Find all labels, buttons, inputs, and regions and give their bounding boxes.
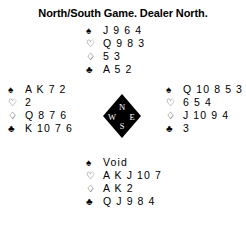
diamond-icon: ♢ (86, 182, 103, 195)
club-icon: ♣ (8, 122, 25, 135)
hand-west-spades: A K 7 2 (25, 83, 67, 96)
hand-north-diamonds: 5 3 (103, 50, 121, 63)
hand-south-hearts-row: ♡ A K J 10 7 (86, 169, 162, 182)
hand-east-clubs: 3 (183, 122, 190, 135)
compass-label-south: S (117, 122, 127, 131)
heart-icon: ♡ (86, 37, 103, 50)
hand-south-spades-row: ♠ Void (86, 156, 162, 169)
spade-icon: ♠ (8, 83, 25, 96)
hand-south-clubs-row: ♣ Q J 9 8 4 (86, 195, 162, 208)
hand-north-clubs: A 5 2 (103, 63, 132, 76)
hand-south-diamonds-row: ♢ A K 2 (86, 182, 162, 195)
club-icon: ♣ (166, 122, 183, 135)
hand-north-spades-row: ♠ J 9 6 4 (86, 24, 145, 37)
diamond-icon: ♢ (166, 109, 183, 122)
compass-rose: N W E S (103, 94, 141, 138)
compass-label-north: N (117, 103, 127, 112)
hand-south-hearts: A K J 10 7 (103, 169, 162, 182)
compass-label-west: W (107, 113, 117, 122)
hand-north-hearts-row: ♡ Q 9 8 3 (86, 37, 145, 50)
hand-north-diamonds-row: ♢ 5 3 (86, 50, 145, 63)
hand-south-spades: Void (103, 156, 128, 169)
hand-west-diamonds-row: ♢ Q 8 7 6 (8, 109, 73, 122)
hand-west-spades-row: ♠ A K 7 2 (8, 83, 73, 96)
hand-west-hearts: 2 (25, 96, 32, 109)
hand-east-spades-row: ♠ Q 10 8 5 3 (166, 83, 243, 96)
club-icon: ♣ (86, 63, 103, 76)
bridge-deal-diagram: North/South Game. Dealer North. ♠ J 9 6 … (0, 0, 246, 230)
heart-icon: ♡ (86, 169, 103, 182)
hand-north-spades: J 9 6 4 (103, 24, 142, 37)
spade-icon: ♠ (86, 156, 103, 169)
diamond-icon: ♢ (8, 109, 25, 122)
heart-icon: ♡ (8, 96, 25, 109)
hand-south: ♠ Void ♡ A K J 10 7 ♢ A K 2 ♣ Q J 9 8 4 (86, 156, 162, 208)
hand-north-hearts: Q 9 8 3 (103, 37, 145, 50)
diamond-icon: ♢ (86, 50, 103, 63)
hand-west-hearts-row: ♡ 2 (8, 96, 73, 109)
spade-icon: ♠ (166, 83, 183, 96)
hand-east-hearts-row: ♡ 6 5 4 (166, 96, 243, 109)
hand-east: ♠ Q 10 8 5 3 ♡ 6 5 4 ♢ J 10 9 4 ♣ 3 (166, 83, 243, 135)
hand-west: ♠ A K 7 2 ♡ 2 ♢ Q 8 7 6 ♣ K 10 7 6 (8, 83, 73, 135)
spade-icon: ♠ (86, 24, 103, 37)
hand-east-diamonds-row: ♢ J 10 9 4 (166, 109, 243, 122)
hand-west-clubs-row: ♣ K 10 7 6 (8, 122, 73, 135)
hand-west-clubs: K 10 7 6 (25, 122, 73, 135)
club-icon: ♣ (86, 195, 103, 208)
hand-east-hearts: 6 5 4 (183, 96, 212, 109)
hand-east-clubs-row: ♣ 3 (166, 122, 243, 135)
page-title: North/South Game. Dealer North. (0, 7, 246, 20)
heart-icon: ♡ (166, 96, 183, 109)
hand-north-clubs-row: ♣ A 5 2 (86, 63, 145, 76)
hand-east-diamonds: J 10 9 4 (183, 109, 229, 122)
compass-label-east: E (127, 113, 137, 122)
hand-north: ♠ J 9 6 4 ♡ Q 9 8 3 ♢ 5 3 ♣ A 5 2 (86, 24, 145, 76)
hand-south-clubs: Q J 9 8 4 (103, 195, 156, 208)
hand-east-spades: Q 10 8 5 3 (183, 83, 243, 96)
hand-south-diamonds: A K 2 (103, 182, 134, 195)
hand-west-diamonds: Q 8 7 6 (25, 109, 67, 122)
